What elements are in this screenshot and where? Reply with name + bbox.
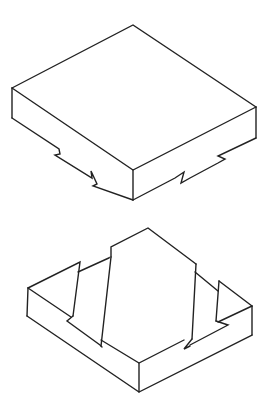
diagram-canvas: Isometric line drawing of two interlocki… xyxy=(0,0,272,407)
top-block-top-face xyxy=(12,25,256,170)
right-lug-top-edge xyxy=(219,281,252,306)
left-lug-outline xyxy=(28,262,80,316)
base-left-top-edge xyxy=(28,288,71,317)
left-lug-notch-and-ledge xyxy=(67,316,102,347)
base-left-vertical xyxy=(27,288,28,316)
isometric-drawing xyxy=(0,0,272,407)
right-lug-left-edge xyxy=(216,281,219,321)
left-ledge-back-edge xyxy=(78,257,111,272)
top-block xyxy=(12,25,256,200)
tenon-face xyxy=(101,228,196,363)
bottom-block xyxy=(27,228,252,392)
right-ledge-back-edge xyxy=(195,272,218,291)
base-right-top-edge xyxy=(218,306,252,322)
right-lug-notch xyxy=(190,321,228,345)
